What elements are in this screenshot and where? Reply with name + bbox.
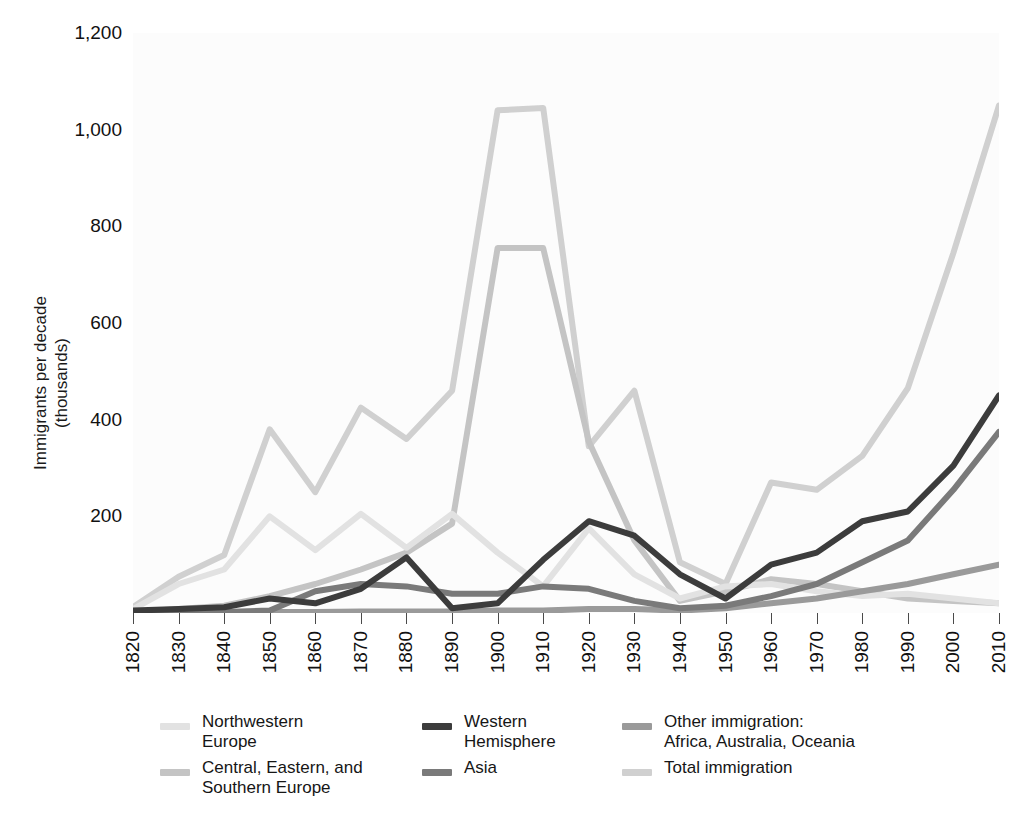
x-tick-mark [133,613,134,624]
x-tick-label: 1860 [304,631,326,673]
legend-label: WesternHemisphere [464,712,556,752]
x-tick-mark [361,613,362,624]
x-tick-mark [634,613,635,624]
x-tick-label: 1920 [578,631,600,673]
immigration-line-chart: Immigrants per decade (thousands) 200400… [0,0,1012,827]
y-tick-label: 1,000 [2,119,122,141]
legend-label-line1: Other immigration: [664,712,855,732]
series-line [133,396,999,611]
x-tick-mark [862,613,863,624]
x-tick-mark [680,613,681,624]
y-tick-label: 400 [2,409,122,431]
legend-swatch-icon [622,769,652,776]
x-tick-label: 1850 [259,631,281,673]
legend-label-line1: Western [464,712,556,732]
legend-label-line1: Total immigration [664,758,793,778]
legend-item[interactable]: Central, Eastern, andSouthern Europe [160,758,422,798]
legend-item[interactable]: Total immigration [622,758,922,778]
x-tick-label: 1970 [806,631,828,673]
x-tick-label: 1990 [897,631,919,673]
legend-swatch-icon [622,723,652,730]
x-tick-label: 1840 [213,631,235,673]
x-tick-mark [953,613,954,624]
x-tick-mark [543,613,544,624]
x-tick-mark [179,613,180,624]
x-tick-label: 1940 [669,631,691,673]
x-tick-label: 1820 [122,631,144,673]
x-tick-label: 1960 [760,631,782,673]
legend-label: NorthwesternEurope [202,712,303,752]
x-tick-mark [406,613,407,624]
x-tick-mark [498,613,499,624]
x-tick-label: 1900 [487,631,509,673]
legend-swatch-icon [422,723,452,730]
x-tick-label: 1980 [851,631,873,673]
plot-area [133,33,999,613]
x-tick-mark [908,613,909,624]
y-tick-label: 600 [2,312,122,334]
x-tick-mark [270,613,271,624]
chart-legend: NorthwesternEuropeWesternHemisphereOther… [160,712,1000,812]
y-tick-label: 200 [2,505,122,527]
x-tick-mark [726,613,727,624]
x-tick-label: 1890 [441,631,463,673]
x-tick-label: 1880 [395,631,417,673]
x-axis: 1820183018401850186018701880189019001910… [133,613,999,723]
legend-label-line2: Europe [202,732,303,752]
legend-label: Other immigration:Africa, Australia, Oce… [664,712,855,752]
x-tick-label: 2010 [988,631,1010,673]
legend-label-line1: Northwestern [202,712,303,732]
legend-label: Total immigration [664,758,793,778]
y-axis-ticks: 2004006008001,0001,200 [0,0,122,660]
legend-label-line2: Africa, Australia, Oceania [664,732,855,752]
legend-item[interactable]: Asia [422,758,622,778]
x-tick-label: 2000 [942,631,964,673]
legend-label-line1: Asia [464,758,497,778]
x-tick-label: 1830 [168,631,190,673]
legend-label: Asia [464,758,497,778]
legend-label-line1: Central, Eastern, and [202,758,363,778]
x-tick-label: 1910 [532,631,554,673]
x-tick-mark [224,613,225,624]
series-canvas [133,33,999,613]
x-tick-label: 1950 [715,631,737,673]
x-tick-label: 1930 [623,631,645,673]
y-tick-label: 800 [2,215,122,237]
legend-swatch-icon [422,769,452,776]
legend-swatch-icon [160,723,190,730]
legend-swatch-icon [160,769,190,776]
x-tick-label: 1870 [350,631,372,673]
legend-label-line2: Southern Europe [202,778,363,798]
x-tick-mark [589,613,590,624]
legend-item[interactable]: Other immigration:Africa, Australia, Oce… [622,712,922,752]
x-tick-mark [999,613,1000,624]
legend-item[interactable]: WesternHemisphere [422,712,622,752]
x-tick-mark [771,613,772,624]
x-tick-mark [817,613,818,624]
legend-label: Central, Eastern, andSouthern Europe [202,758,363,798]
legend-label-line2: Hemisphere [464,732,556,752]
x-tick-mark [315,613,316,624]
y-tick-label: 1,200 [2,22,122,44]
legend-item[interactable]: NorthwesternEurope [160,712,422,752]
x-tick-mark [452,613,453,624]
